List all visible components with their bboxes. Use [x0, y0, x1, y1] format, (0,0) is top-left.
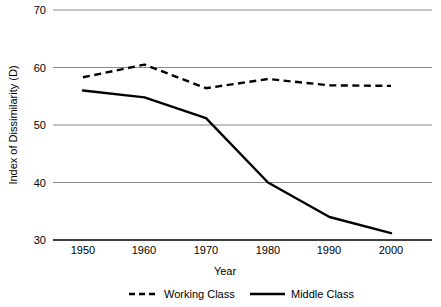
legend-label-working-class: Working Class: [164, 288, 235, 300]
x-tick-label-1990: 1990: [317, 244, 341, 256]
line-chart: 70 60 50 40 30 Index of Dissimilarity (D…: [0, 0, 441, 307]
x-tick-label-1970: 1970: [194, 244, 218, 256]
chart-background: [0, 0, 441, 307]
x-tick-label-2000: 2000: [379, 244, 403, 256]
y-tick-label-70: 70: [34, 4, 46, 16]
x-tick-label-1980: 1980: [256, 244, 280, 256]
chart-canvas: 70 60 50 40 30 Index of Dissimilarity (D…: [0, 0, 441, 307]
y-tick-label-60: 60: [34, 62, 46, 74]
x-tick-label-1950: 1950: [71, 244, 95, 256]
legend-label-middle-class: Middle Class: [291, 288, 354, 300]
x-tick-label-1960: 1960: [132, 244, 156, 256]
x-axis-title: Year: [214, 265, 237, 277]
y-tick-label-30: 30: [34, 234, 46, 246]
y-tick-label-50: 50: [34, 119, 46, 131]
y-tick-label-40: 40: [34, 177, 46, 189]
y-axis-title: Index of Dissimilarity (D): [7, 65, 19, 184]
